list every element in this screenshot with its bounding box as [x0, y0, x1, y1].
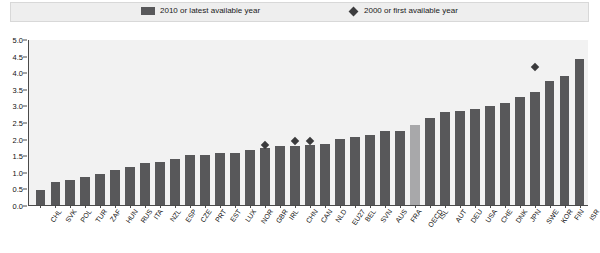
y-axis-tick-mark	[23, 73, 27, 74]
point-marker-swe[interactable]	[530, 63, 538, 71]
bar-slot[interactable]	[33, 40, 48, 205]
bar-jpn[interactable]	[515, 97, 525, 205]
bar-zaf[interactable]	[95, 174, 105, 205]
bar-swe[interactable]	[530, 92, 540, 205]
bar-slot[interactable]	[317, 40, 332, 205]
bar-ita[interactable]	[140, 163, 150, 205]
bar-slot[interactable]	[78, 40, 93, 205]
bar-slot[interactable]	[303, 40, 318, 205]
bar-slot[interactable]	[437, 40, 452, 205]
x-axis-label-fin: FIN	[572, 208, 584, 221]
bar-fin[interactable]	[560, 76, 570, 205]
bar-slot[interactable]	[228, 40, 243, 205]
bar-nzl[interactable]	[155, 162, 165, 205]
y-axis-tick-label: 2.0	[13, 135, 23, 144]
bar-isl[interactable]	[425, 118, 435, 205]
bar-slot[interactable]	[198, 40, 213, 205]
bar-slot[interactable]	[93, 40, 108, 205]
bar-esp[interactable]	[170, 159, 180, 205]
bar-chl[interactable]	[36, 190, 46, 205]
bar-slot[interactable]	[168, 40, 183, 205]
bar-slot[interactable]	[467, 40, 482, 205]
y-axis-tick-label: 3.5	[13, 85, 23, 94]
bar-chn[interactable]	[290, 146, 300, 205]
x-axis-label-svk: SVK	[64, 208, 78, 223]
bar-slot[interactable]	[557, 40, 572, 205]
bar-slot[interactable]	[572, 40, 587, 205]
bar-gbr[interactable]	[260, 148, 270, 205]
bar-cze[interactable]	[185, 155, 195, 205]
bar-slot[interactable]	[108, 40, 123, 205]
bar-slot[interactable]	[63, 40, 78, 205]
x-axis-label-esp: ESP	[184, 208, 198, 223]
legend-bar-label: 2010 or latest available year	[160, 6, 260, 16]
y-axis-tick-label: 2.5	[13, 119, 23, 128]
bar-slot[interactable]	[243, 40, 258, 205]
bar-bel[interactable]	[350, 137, 360, 205]
bar-oecd[interactable]	[410, 125, 420, 205]
bar-slot[interactable]	[392, 40, 407, 205]
bar-tur[interactable]	[80, 177, 90, 205]
bar-aus[interactable]	[380, 131, 390, 205]
bar-usa[interactable]	[470, 109, 480, 205]
bar-slot[interactable]	[482, 40, 497, 205]
y-axis-tick-label: 0.0	[13, 202, 23, 211]
bar-hun[interactable]	[110, 170, 120, 205]
bar-svk[interactable]	[51, 182, 61, 205]
y-axis-tick-label: 0.5	[13, 185, 23, 194]
bar-slot[interactable]	[527, 40, 542, 205]
x-axis-label-swe: SWE	[544, 208, 559, 225]
bar-nor[interactable]	[245, 150, 255, 205]
y-axis-tick-label: 5.0	[13, 36, 23, 45]
bar-slot[interactable]	[512, 40, 527, 205]
bar-dnk[interactable]	[500, 103, 510, 205]
bar-slot[interactable]	[48, 40, 63, 205]
bar-slot[interactable]	[183, 40, 198, 205]
bar-svn[interactable]	[365, 135, 375, 205]
bar-slot[interactable]	[123, 40, 138, 205]
x-axis-label-irl: IRL	[288, 208, 300, 221]
x-axis-label-aut: AUT	[454, 208, 468, 223]
bar-slot[interactable]	[542, 40, 557, 205]
bar-che[interactable]	[485, 106, 495, 205]
x-axis-label-chn: CHN	[304, 208, 318, 224]
bar-slot[interactable]	[497, 40, 512, 205]
x-axis-label-kor: KOR	[559, 208, 573, 224]
bar-deu[interactable]	[455, 111, 465, 205]
bar-pol[interactable]	[65, 180, 75, 205]
y-axis-tick-mark	[23, 40, 27, 41]
y-axis-tick-mark	[23, 172, 27, 173]
bar-est[interactable]	[215, 153, 225, 205]
bar-rus[interactable]	[125, 167, 135, 205]
bar-kor[interactable]	[545, 81, 555, 205]
x-axis-label-est: EST	[229, 208, 243, 223]
bar-slot[interactable]	[258, 40, 273, 205]
bar-slot[interactable]	[452, 40, 467, 205]
point-marker-can[interactable]	[306, 137, 314, 145]
bar-isr[interactable]	[575, 59, 585, 205]
x-axis-label-fra: FRA	[409, 208, 423, 223]
bar-irl[interactable]	[275, 146, 285, 205]
bar-slot[interactable]	[332, 40, 347, 205]
bar-eu27[interactable]	[335, 139, 345, 205]
bar-slot[interactable]	[377, 40, 392, 205]
bar-slot[interactable]	[422, 40, 437, 205]
bar-aut[interactable]	[440, 112, 450, 205]
plot-area	[28, 40, 588, 206]
bar-fra[interactable]	[395, 131, 405, 205]
bar-slot[interactable]	[347, 40, 362, 205]
bar-slot[interactable]	[213, 40, 228, 205]
bar-nld[interactable]	[320, 144, 330, 205]
bar-lux[interactable]	[230, 153, 240, 205]
point-marker-chn[interactable]	[291, 137, 299, 145]
bar-slot[interactable]	[407, 40, 422, 205]
bar-slot[interactable]	[153, 40, 168, 205]
bar-slot[interactable]	[362, 40, 377, 205]
bar-can[interactable]	[305, 145, 315, 205]
y-axis-tick-label: 4.5	[13, 52, 23, 61]
bar-slot[interactable]	[273, 40, 288, 205]
x-axis-label-deu: DEU	[469, 208, 483, 224]
bar-slot[interactable]	[138, 40, 153, 205]
bar-prt[interactable]	[200, 155, 210, 205]
bar-slot[interactable]	[288, 40, 303, 205]
